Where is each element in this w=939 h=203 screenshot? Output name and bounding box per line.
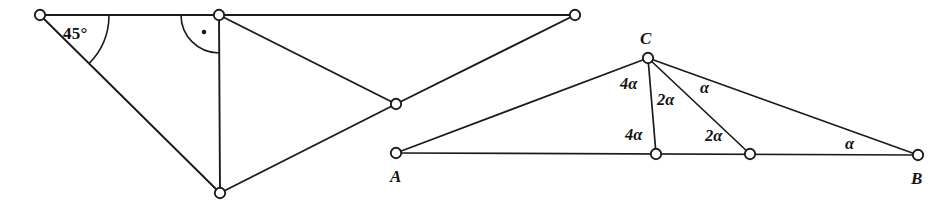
diagonal-lower-edge bbox=[220, 104, 396, 193]
vertex-node-crossing bbox=[391, 99, 401, 109]
point-label-c: C bbox=[640, 30, 651, 47]
vertex-node-bottom bbox=[215, 188, 225, 198]
angle-45-arc bbox=[89, 15, 109, 64]
angle-label-alpha-at-c: α bbox=[700, 80, 709, 97]
side-ac-edge bbox=[396, 58, 648, 153]
diagonal-upper-edge bbox=[219, 15, 396, 104]
right-angle-arc bbox=[181, 15, 219, 53]
right-angle-dot bbox=[202, 30, 207, 35]
side-cb-edge bbox=[648, 58, 918, 155]
geometry-figure-canvas: 45° C A B 4α 2α α 4α 2α α bbox=[0, 0, 939, 203]
angle-label-45-degrees: 45° bbox=[63, 25, 87, 42]
angle-label-4alpha-at-c: 4α bbox=[620, 76, 637, 93]
vertex-node-a bbox=[391, 148, 401, 158]
diagonal-to-right-edge bbox=[396, 15, 575, 104]
cevian-cd-edge bbox=[648, 58, 656, 154]
vertex-node-b bbox=[913, 150, 923, 160]
diagram-svg bbox=[0, 0, 939, 203]
angle-label-4alpha-at-d: 4α bbox=[625, 127, 642, 144]
vertical-altitude-edge bbox=[219, 15, 220, 193]
angle-label-alpha-at-b: α bbox=[845, 136, 854, 153]
vertex-node-top-middle bbox=[214, 10, 224, 20]
vertex-node-c bbox=[643, 53, 653, 63]
point-label-a: A bbox=[390, 168, 401, 185]
point-label-b: B bbox=[911, 170, 922, 187]
left-figure-group bbox=[35, 10, 580, 198]
vertex-node-top-right bbox=[570, 10, 580, 20]
angle-label-2alpha-at-c: 2α bbox=[657, 92, 674, 109]
vertex-node-top-left bbox=[35, 10, 45, 20]
vertex-node-d bbox=[651, 149, 661, 159]
vertex-node-e bbox=[745, 149, 755, 159]
angle-label-2alpha-at-e: 2α bbox=[705, 128, 722, 145]
